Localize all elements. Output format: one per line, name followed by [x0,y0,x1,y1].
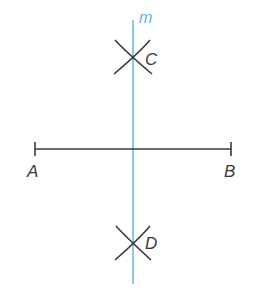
diagram-canvas [0,0,254,292]
label-d: D [145,235,157,252]
label-a: A [27,163,38,180]
label-m: m [139,10,152,26]
label-c: C [145,51,157,68]
label-b: B [224,163,235,180]
